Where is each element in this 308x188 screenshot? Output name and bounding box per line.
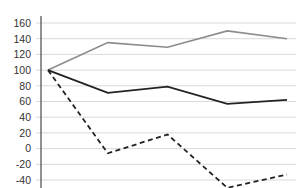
y-tick-label: 0 xyxy=(25,142,31,154)
y-tick-label: 20 xyxy=(19,127,31,139)
y-tick-label: 160 xyxy=(13,17,31,29)
series-line-black-dashed xyxy=(48,70,287,188)
y-tick-label: -20 xyxy=(16,158,31,170)
y-tick-label: 120 xyxy=(13,48,31,60)
y-axis-tick-labels: 160140120100806040200-20-40 xyxy=(13,17,31,186)
y-tick-label: -40 xyxy=(16,174,31,186)
y-tick-label: 60 xyxy=(19,95,31,107)
y-tick-label: 100 xyxy=(13,64,31,76)
y-tick-label: 140 xyxy=(13,33,31,45)
line-chart: 160140120100806040200-20-40 xyxy=(0,0,308,188)
y-tick-label: 40 xyxy=(19,111,31,123)
series-line-gray-solid xyxy=(48,31,287,70)
series-line-black-solid xyxy=(48,70,287,104)
y-tick-label: 80 xyxy=(19,80,31,92)
